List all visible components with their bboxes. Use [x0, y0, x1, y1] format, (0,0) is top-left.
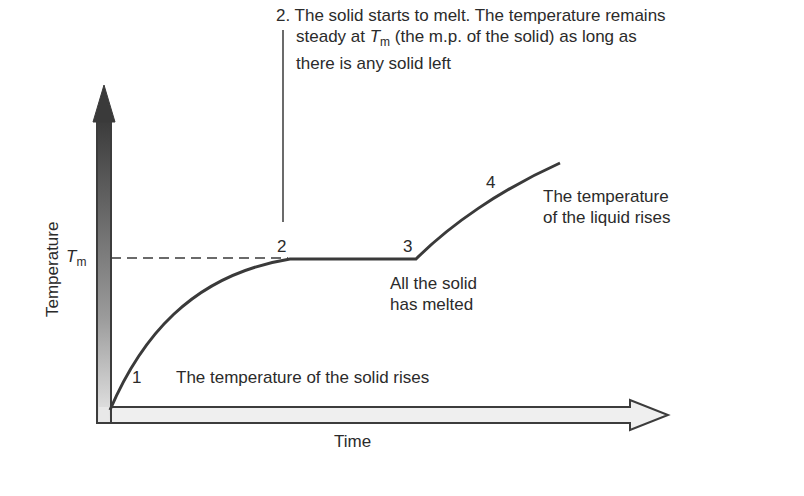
solid-rises-annotation: The temperature of the solid rises	[176, 367, 429, 388]
tm-symbol: T	[66, 247, 76, 266]
all-melted-annotation-line2: has melted	[390, 294, 473, 315]
melting-note: 2. The solid starts to melt. The tempera…	[276, 5, 666, 74]
note-text: (the m.p. of the solid) as long as	[390, 27, 637, 46]
point-1-label: 1	[132, 367, 141, 388]
tm-subscript: m	[380, 35, 390, 49]
point-4-label: 4	[486, 172, 495, 193]
liquid-rises-annotation-line1: The temperature	[543, 186, 669, 207]
melting-note-line2: steady at Tm (the m.p. of the solid) as …	[276, 26, 666, 53]
liquid-rises-annotation-line2: of the liquid rises	[543, 207, 671, 228]
tm-tick-label: Tm	[66, 246, 86, 273]
tm-symbol: T	[370, 27, 380, 46]
all-melted-annotation-line1: All the solid	[390, 273, 477, 294]
tm-subscript: m	[76, 255, 86, 269]
note-text: steady at	[296, 27, 370, 46]
y-axis-arrow	[93, 85, 115, 423]
y-axis-label: Temperature	[43, 227, 63, 317]
x-axis-arrow	[100, 400, 668, 430]
point-2-label: 2	[277, 236, 286, 257]
x-axis-label: Time	[334, 431, 371, 452]
melting-note-line3: there is any solid left	[276, 53, 666, 74]
heating-curve-diagram	[0, 0, 804, 496]
point-3-label: 3	[403, 236, 412, 257]
melting-note-line1: 2. The solid starts to melt. The tempera…	[276, 5, 666, 26]
